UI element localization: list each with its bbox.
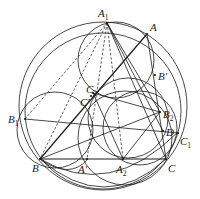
label-A2: A2 bbox=[115, 163, 127, 178]
labels-group: A1AB′C2C′B1B2DC1BA′A2C bbox=[8, 7, 191, 178]
label-C_prime: C′ bbox=[80, 96, 90, 108]
segment-A-C bbox=[147, 34, 166, 159]
label-B1: B1 bbox=[8, 113, 19, 128]
label-C: C bbox=[168, 162, 176, 174]
point-A bbox=[146, 33, 148, 35]
geometry-diagram: A1AB′C2C′B1B2DC1BA′A2C bbox=[0, 0, 200, 199]
segment-B1-C1 bbox=[25, 119, 178, 133]
arc-b-lower-2 bbox=[40, 159, 166, 187]
point-B bbox=[39, 158, 41, 160]
label-A1: A1 bbox=[97, 7, 109, 22]
label-D: D bbox=[165, 126, 174, 138]
point-A_prime bbox=[86, 158, 88, 160]
point-B2 bbox=[159, 111, 161, 113]
outer-circle bbox=[19, 22, 187, 190]
label-A: A bbox=[149, 21, 157, 33]
segment-A1-D bbox=[107, 23, 163, 131]
point-A2 bbox=[122, 158, 124, 160]
point-C bbox=[165, 158, 167, 160]
label-B: B bbox=[32, 162, 39, 174]
point-B1 bbox=[24, 118, 26, 120]
point-A1 bbox=[106, 22, 108, 24]
label-B_prime: B′ bbox=[158, 70, 168, 82]
point-C_prime bbox=[90, 95, 92, 97]
point-D bbox=[162, 130, 164, 132]
point-B_prime bbox=[154, 74, 156, 76]
segments-group bbox=[25, 23, 178, 159]
point-C1 bbox=[177, 132, 179, 134]
label-A_prime: A′ bbox=[77, 163, 88, 175]
label-C1: C1 bbox=[180, 135, 191, 150]
